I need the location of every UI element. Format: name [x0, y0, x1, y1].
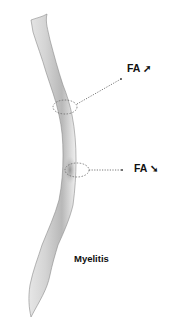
arrow-up-right-icon: ➚	[143, 63, 151, 74]
fa-decreased-label: FA➘	[134, 162, 158, 174]
fa-text: FA	[127, 62, 140, 74]
upper-connector-line	[77, 79, 121, 104]
upper-connector-dot	[120, 78, 122, 80]
lower-connector-dot	[121, 169, 123, 171]
lesion-shading	[64, 156, 76, 184]
arrow-down-right-icon: ➘	[150, 163, 158, 174]
fa-text: FA	[134, 162, 147, 174]
myelitis-caption: Myelitis	[74, 253, 109, 264]
fa-increased-label: FA➚	[127, 62, 151, 74]
